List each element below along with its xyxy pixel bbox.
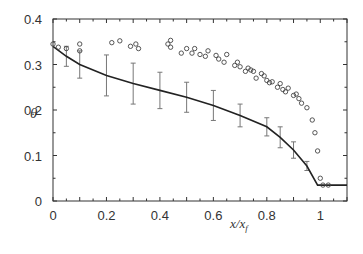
data-point (134, 42, 138, 46)
x-tick-label: 0.4 (151, 208, 169, 223)
chart: 00.10.20.30.4 00.20.40.60.81 θ x/xf (0, 0, 363, 254)
data-point (235, 60, 239, 64)
data-point (192, 46, 196, 50)
error-bars (64, 46, 310, 170)
x-tick-label: 0 (49, 208, 56, 223)
data-point (270, 80, 274, 84)
y-tick-label: 0.4 (24, 12, 42, 27)
x-tick-label: 0.8 (258, 208, 276, 223)
x-tick-label: 0.2 (97, 208, 115, 223)
data-point (238, 65, 242, 69)
plot-frame (53, 19, 347, 201)
data-point (305, 106, 309, 110)
data-point (315, 149, 319, 153)
data-point (203, 54, 207, 58)
data-point (179, 51, 183, 55)
data-point (190, 51, 194, 55)
data-point (254, 76, 258, 80)
data-point (222, 60, 226, 64)
y-tick-label: 0.3 (24, 58, 42, 73)
data-point (318, 176, 322, 180)
data-points (51, 38, 331, 187)
data-point (225, 52, 229, 56)
data-point (136, 46, 140, 50)
y-axis-title: θ (30, 105, 38, 121)
data-point (110, 40, 114, 44)
data-point (184, 46, 188, 50)
model-curve (53, 46, 347, 185)
y-tick-label: 0 (35, 194, 42, 209)
data-point (168, 38, 172, 42)
data-point (118, 39, 122, 43)
data-point (78, 42, 82, 46)
data-point (217, 57, 221, 61)
data-point (310, 118, 314, 122)
x-tick-label: 1 (317, 208, 324, 223)
data-point (278, 81, 282, 85)
axis-ticks (53, 19, 347, 201)
data-point (56, 45, 60, 49)
x-tick-label: 0.6 (204, 208, 222, 223)
data-point (297, 96, 301, 100)
data-point (168, 45, 172, 49)
data-point (128, 44, 132, 48)
y-tick-label: 0.1 (24, 149, 42, 164)
data-point (206, 49, 210, 53)
data-point (313, 131, 317, 135)
data-point (299, 101, 303, 105)
data-point (198, 52, 202, 56)
x-axis-title: x/xf (229, 216, 249, 233)
data-point (286, 86, 290, 90)
x-tick-labels: 00.20.40.60.81 (49, 208, 324, 223)
